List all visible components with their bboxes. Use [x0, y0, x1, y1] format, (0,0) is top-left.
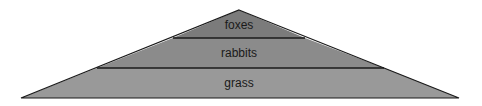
- label-foxes: foxes: [225, 18, 254, 32]
- label-grass: grass: [224, 76, 253, 90]
- label-rabbits: rabbits: [221, 46, 257, 60]
